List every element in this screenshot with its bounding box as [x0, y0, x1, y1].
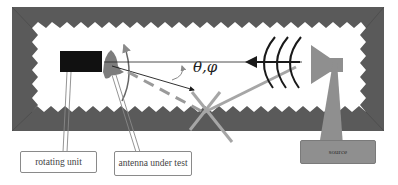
antenna-under-test-label: antenna under test	[114, 151, 192, 176]
rotating-unit-label: rotating unit	[20, 151, 97, 173]
aut-leader	[112, 75, 140, 152]
anechoic-chamber-diagram: θ,φ rotating unit antenna under test sou…	[0, 0, 398, 185]
source-label: source	[300, 140, 376, 164]
rotating-unit-leader	[63, 72, 71, 152]
